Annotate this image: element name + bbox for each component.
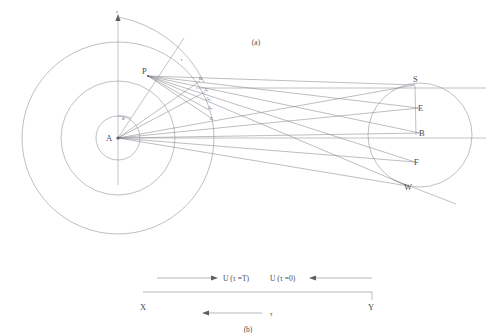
- label-axis-z: z: [116, 9, 118, 14]
- label-scatter-point-3: A₃: [208, 105, 213, 110]
- panel-b-caption: (b): [244, 325, 253, 333]
- chord-S-to-B: [415, 86, 416, 135]
- rays-from-A: [118, 85, 420, 186]
- label-flow-left: U (τ =T): [223, 274, 249, 283]
- label-target-point-W: W: [404, 182, 412, 192]
- point-marker-A: [116, 136, 119, 139]
- oblique-axis: [118, 38, 184, 138]
- label-baseline-X: X: [140, 302, 146, 312]
- panel-a-caption: (a): [252, 38, 261, 47]
- label-target-point-F: F: [414, 157, 419, 167]
- tau-arrow-head: [202, 311, 209, 316]
- panel-b-group: [143, 276, 372, 316]
- panel-a-group: [22, 14, 486, 234]
- label-arc-r: r: [181, 57, 183, 62]
- radius-arc: [118, 17, 204, 82]
- scatter-node-connectors: [118, 76, 211, 138]
- diagram-canvas: (a) (b) A θ z r P D A₁ A₂ A₃ G S E B F W…: [0, 0, 486, 333]
- label-scatter-point-1: A₁: [204, 87, 209, 92]
- label-scatter-point-4: G: [210, 116, 213, 121]
- flow-arrow-right-head: [309, 276, 316, 281]
- label-target-point-B: B: [419, 128, 425, 138]
- label-scatter-point-2: A₂: [206, 96, 211, 101]
- label-scatter-point-0: D: [199, 76, 202, 81]
- label-target-point-S: S: [413, 74, 418, 84]
- label-target-point-E: E: [418, 103, 423, 113]
- label-tau: τ: [270, 310, 273, 318]
- point-marker-P: [147, 75, 149, 77]
- label-point-P: P: [142, 66, 147, 76]
- flow-arrow-left-head: [211, 276, 218, 281]
- label-baseline-Y: Y: [368, 302, 374, 312]
- label-flow-right: U (τ =0): [270, 274, 296, 283]
- label-point-A: A: [106, 133, 113, 143]
- figure-root: (a) (b) A θ z r P D A₁ A₂ A₃ G S E B F W…: [0, 0, 486, 333]
